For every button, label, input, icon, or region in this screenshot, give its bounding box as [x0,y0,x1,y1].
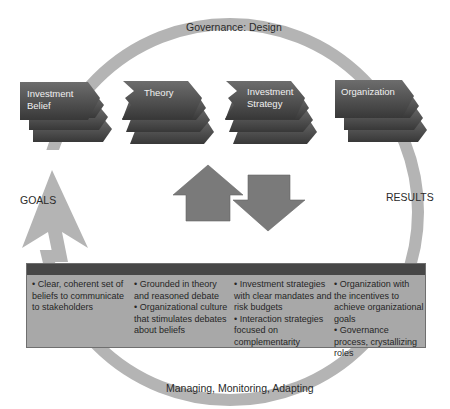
managing-monitoring-adapting-label: Managing, Monitoring, Adapting [166,382,314,394]
requirements-panel: • Clear, coherent set of beliefs to comm… [26,263,426,348]
down-arrow-icon [233,175,305,231]
panel-header-strip [27,264,425,275]
up-arrow-icon [173,165,243,221]
stage-label-investment-belief: Investment Belief [27,88,73,112]
panel-column-organization: • Organization with the incentives to ac… [334,279,424,360]
panel-column-investment-belief: • Clear, coherent set of beliefs to comm… [32,279,132,314]
governance-design-label: Governance: Design [186,21,282,33]
stage-label-theory: Theory [144,87,174,99]
results-label: RESULTS [386,191,434,203]
panel-column-investment-strategy: • Investment strategies with clear manda… [234,279,334,348]
goals-label: GOALS [20,194,56,206]
stage-label-organization: Organization [341,86,395,98]
stage-label-investment-strategy: Investment Strategy [247,86,293,110]
panel-column-theory: • Grounded in theory and reasoned debate… [134,279,234,337]
